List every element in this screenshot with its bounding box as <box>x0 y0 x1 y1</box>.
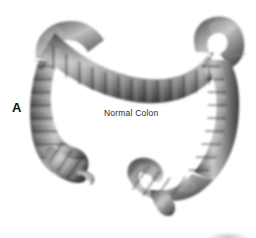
figure-panel-a: A Normal Colon <box>0 0 256 238</box>
organ-caption: Normal Colon <box>104 108 158 118</box>
normal-colon-illustration <box>0 0 256 238</box>
panel-letter-a: A <box>12 101 21 115</box>
